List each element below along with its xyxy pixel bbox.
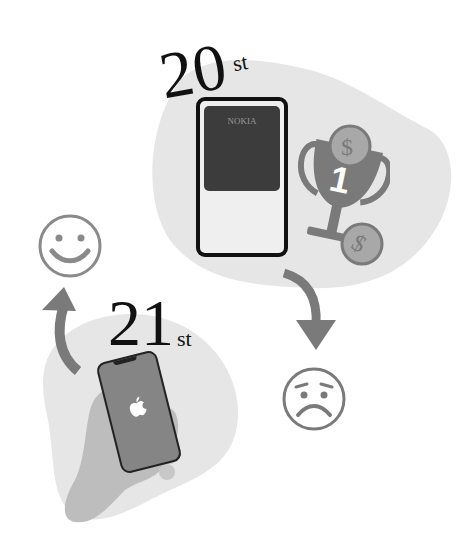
century-21-number: 21 — [108, 290, 174, 356]
down-arrow-icon — [278, 268, 338, 353]
coin-icon-top: $ — [328, 124, 372, 168]
apple-logo-icon — [127, 395, 149, 419]
nokia-brand-label: NOKIA — [204, 116, 280, 126]
coin-symbol-top: $ — [341, 134, 353, 160]
century-21-suffix: st — [177, 326, 192, 352]
sad-face-icon — [280, 365, 348, 433]
nokia-screen: NOKIA — [204, 106, 280, 191]
nokia-phone: NOKIA — [196, 97, 288, 257]
coin-icon-bottom: $ — [340, 222, 384, 266]
happy-face-icon — [36, 212, 104, 280]
up-arrow-icon — [40, 285, 90, 375]
